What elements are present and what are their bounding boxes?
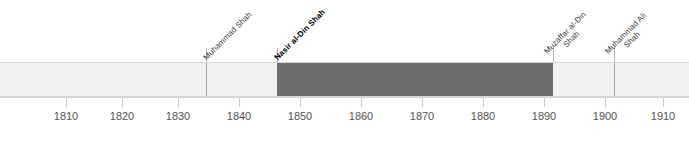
segment-nasir-al-din-shah[interactable]: [277, 63, 553, 96]
segment-muhammad-ali-shah[interactable]: [614, 63, 689, 96]
x-axis-tick-1890: [544, 98, 545, 107]
x-axis-tick-label-1910: 1910: [651, 110, 675, 122]
reign-label-muzaffar-al-din-shah: Muzaffar al-Din Shah: [542, 10, 594, 62]
segment-muhammad-shah[interactable]: [206, 63, 277, 96]
x-axis-tick-1820: [122, 98, 123, 107]
x-axis-tick-label-1890: 1890: [532, 110, 556, 122]
x-axis-tick-label-1850: 1850: [288, 110, 312, 122]
reign-label-nasir-al-din-shah-line1: Nasir al-Din Shah: [273, 8, 327, 62]
x-axis-tick-1900: [605, 98, 606, 107]
segment-fath-ali-shah[interactable]: [0, 63, 206, 96]
reign-timeline-chart: Muhammad Shah Nasir al-Din Shah Muzaffar…: [0, 0, 689, 144]
reign-label-muhammad-shah: Muhammad Shah: [202, 10, 254, 62]
x-axis-tick-1860: [361, 98, 362, 107]
timeline-band: [0, 62, 689, 97]
x-axis-tick-label-1860: 1860: [349, 110, 373, 122]
x-axis-tick-label-1880: 1880: [471, 110, 495, 122]
x-axis-tick-1810: [66, 98, 67, 107]
x-axis-tick-1830: [178, 98, 179, 107]
x-axis-tick-1870: [422, 98, 423, 107]
reign-label-muhammad-ali-shah: Muhammad Ali Shah: [603, 11, 654, 62]
x-axis-tick-label-1870: 1870: [410, 110, 434, 122]
x-axis-line: [0, 97, 689, 98]
x-axis-tick-label-1840: 1840: [227, 110, 251, 122]
x-axis-tick-label-1820: 1820: [110, 110, 134, 122]
reign-label-nasir-al-din-shah: Nasir al-Din Shah: [273, 8, 327, 62]
x-axis-tick-label-1900: 1900: [593, 110, 617, 122]
reign-label-muhammad-shah-line1: Muhammad Shah: [202, 10, 254, 62]
x-axis-tick-1840: [239, 98, 240, 107]
segment-muzaffar-al-din-shah[interactable]: [553, 63, 614, 96]
x-axis-tick-1910: [663, 98, 664, 107]
x-axis-tick-1850: [300, 98, 301, 107]
x-axis-tick-1880: [483, 98, 484, 107]
x-axis-tick-label-1830: 1830: [166, 110, 190, 122]
x-axis-tick-label-1810: 1810: [54, 110, 78, 122]
